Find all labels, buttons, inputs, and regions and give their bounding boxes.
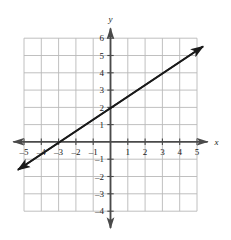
y-tick-label: –3 (94, 189, 105, 199)
y-tick-label: 1 (100, 120, 105, 130)
x-tick-label: 3 (160, 147, 165, 157)
x-tick-labels: –5 –4 –3 –2 –1 1 2 3 4 5 (19, 147, 200, 157)
axis-lines (14, 29, 208, 229)
y-tick-label: 5 (100, 51, 105, 61)
y-axis-label: y (108, 14, 113, 24)
y-tick-label: 4 (100, 68, 105, 78)
x-tick-label: 1 (126, 147, 131, 157)
y-tick-label: –2 (94, 172, 104, 182)
coordinate-plane-figure: –5 –4 –3 –2 –1 1 2 3 4 5 6 5 4 3 2 1 –1 … (0, 0, 231, 240)
coordinate-plane-svg: –5 –4 –3 –2 –1 1 2 3 4 5 6 5 4 3 2 1 –1 … (0, 0, 231, 240)
x-tick-label: 5 (195, 147, 200, 157)
y-tick-label: 2 (100, 103, 105, 113)
x-tick-label: 4 (177, 147, 182, 157)
y-tick-label: –4 (94, 206, 105, 216)
y-tick-label: –1 (94, 154, 104, 164)
y-tick-label: 6 (100, 33, 105, 43)
y-tick-label: 3 (100, 85, 105, 95)
x-tick-label: –2 (70, 147, 80, 157)
x-tick-label: –3 (53, 147, 64, 157)
x-axis-label: x (214, 137, 219, 147)
x-tick-label: –5 (19, 147, 30, 157)
x-tick-label: 2 (143, 147, 148, 157)
x-tick-label: –4 (36, 147, 47, 157)
